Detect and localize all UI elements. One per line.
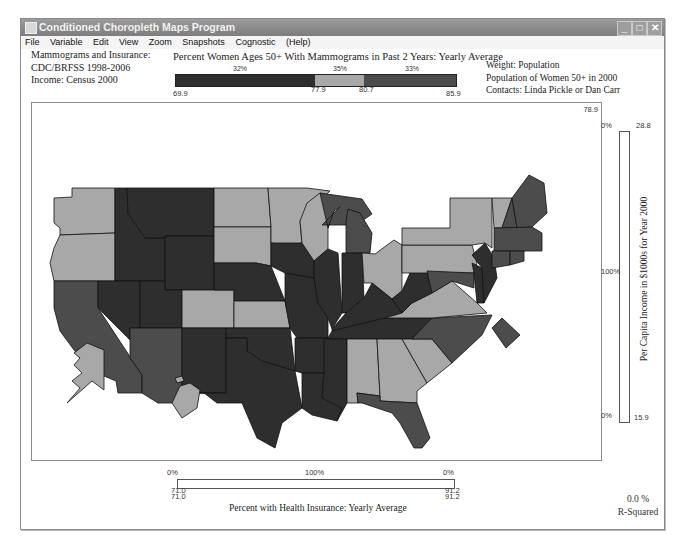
close-button[interactable]: ✕ bbox=[647, 21, 662, 36]
menu-zoom[interactable]: Zoom bbox=[149, 37, 172, 47]
hslider-left-value-b: 71.0 bbox=[171, 494, 186, 500]
r-squared-panel: 0.0 % R-Squared bbox=[603, 493, 673, 519]
choropleth-map[interactable]: 78.9 bbox=[31, 102, 602, 461]
menu-snapshots[interactable]: Snapshots bbox=[182, 37, 225, 47]
state-ri bbox=[510, 251, 524, 265]
income-vertical-slider[interactable] bbox=[619, 131, 630, 423]
menu-file[interactable]: File bbox=[25, 37, 40, 47]
maximize-button[interactable]: □ bbox=[632, 21, 647, 36]
state-ma bbox=[494, 227, 542, 251]
tick-cut1[interactable]: 77.9 bbox=[311, 85, 326, 94]
menu-edit[interactable]: Edit bbox=[93, 37, 109, 47]
menu-bar: File Variable Edit View Zoom Snapshots C… bbox=[21, 36, 664, 49]
minimize-button[interactable]: _ bbox=[617, 21, 632, 36]
legend-segment-low[interactable] bbox=[176, 75, 315, 86]
hslider-right-pct: 0% bbox=[443, 468, 454, 477]
tick-max: 85.9 bbox=[446, 89, 461, 98]
tick-cut2[interactable]: 80.7 bbox=[359, 85, 374, 94]
menu-variable[interactable]: Variable bbox=[50, 37, 82, 47]
hslider-left-pct: 0% bbox=[167, 468, 178, 477]
state-ak bbox=[67, 343, 104, 403]
r-squared-label: R-Squared bbox=[603, 506, 673, 519]
weight-label: Weight: Population bbox=[486, 59, 620, 72]
insurance-horizontal-slider[interactable] bbox=[177, 479, 455, 489]
state-co bbox=[182, 290, 234, 328]
r-squared-value: 0.0 % bbox=[603, 493, 673, 506]
app-icon bbox=[25, 22, 37, 34]
state-wa bbox=[54, 188, 115, 235]
segment-1-pct: 32% bbox=[233, 65, 247, 72]
state-me bbox=[512, 175, 547, 228]
state-ny bbox=[402, 198, 492, 248]
state-dc bbox=[492, 318, 520, 348]
population-label: Population of Women 50+ in 2000 bbox=[486, 72, 620, 85]
contacts-label: Contacts: Linda Pickle or Dan Carr bbox=[486, 84, 620, 97]
dataset-title: Mammograms and Insurance: bbox=[31, 49, 150, 62]
state-ks bbox=[234, 301, 290, 328]
state-sd bbox=[214, 227, 271, 266]
weight-info: Weight: Population Population of Women 5… bbox=[486, 59, 620, 97]
segment-2-pct: 35% bbox=[333, 65, 347, 72]
state-pa bbox=[402, 245, 477, 273]
window-title: Conditioned Choropleth Maps Program bbox=[39, 19, 235, 36]
state-al bbox=[347, 339, 380, 403]
menu-view[interactable]: View bbox=[119, 37, 138, 47]
state-ar bbox=[295, 338, 328, 373]
vslider-label-container: Per Capita Income in $1000s for Year 200… bbox=[634, 119, 654, 439]
vslider-top-pct: 0% bbox=[601, 121, 612, 130]
state-mt bbox=[127, 188, 214, 238]
state-ct bbox=[492, 251, 510, 268]
app-window: Conditioned Choropleth Maps Program _ □ … bbox=[20, 18, 665, 530]
state-wy bbox=[165, 236, 214, 290]
segment-3-pct: 33% bbox=[405, 65, 419, 72]
menu-cognostic[interactable]: Cognostic bbox=[235, 37, 275, 47]
us-map[interactable] bbox=[32, 103, 601, 460]
state-or bbox=[50, 233, 115, 281]
hslider-mid-pct: 100% bbox=[305, 468, 324, 477]
vslider-bottom-pct: 0% bbox=[601, 411, 612, 420]
dataset-info: Mammograms and Insurance: CDC/BRFSS 1998… bbox=[31, 49, 150, 87]
menu-help[interactable]: (Help) bbox=[286, 37, 311, 47]
state-nd bbox=[214, 188, 271, 227]
hslider-right-value-b: 91.2 bbox=[445, 494, 460, 500]
vslider-label: Per Capita Income in $1000s for Year 200… bbox=[639, 197, 649, 362]
main-variable-title: Percent Women Ages 50+ With Mammograms i… bbox=[173, 51, 503, 62]
hslider-label: Percent with Health Insurance: Yearly Av… bbox=[229, 503, 407, 513]
income-source: Income: Census 2000 bbox=[31, 74, 150, 87]
vslider-mid-pct: 100% bbox=[601, 267, 620, 276]
tick-min: 69.9 bbox=[173, 89, 188, 98]
legend-segment-high[interactable] bbox=[364, 75, 456, 86]
dataset-source: CDC/BRFSS 1998-2006 bbox=[31, 62, 150, 75]
title-bar[interactable]: Conditioned Choropleth Maps Program _ □ … bbox=[21, 19, 664, 36]
